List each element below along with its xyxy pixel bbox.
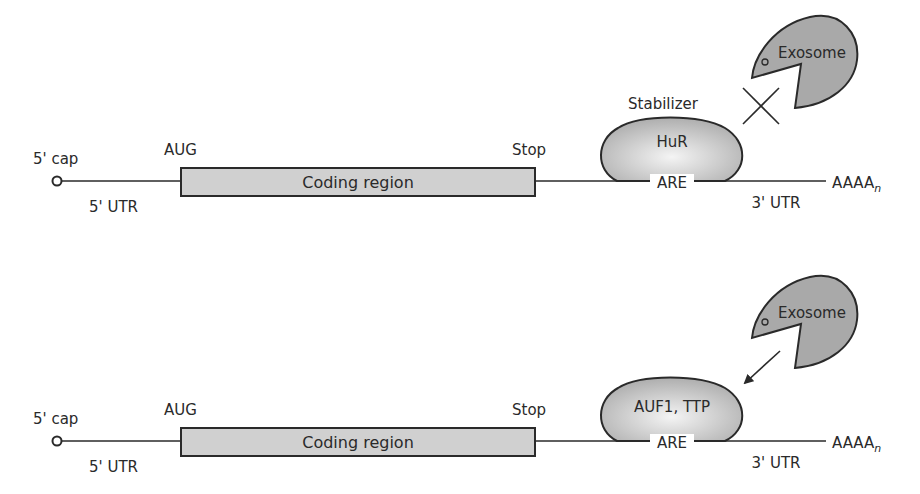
are-label: ARE bbox=[657, 174, 687, 192]
utr3-label: 3' UTR bbox=[752, 454, 801, 472]
start-codon-label: AUG bbox=[164, 401, 197, 419]
stop-codon-label: Stop bbox=[512, 141, 546, 159]
mrna-decay-diagram: 5' cap 5' UTR AUG Coding region Stop Sta… bbox=[0, 0, 920, 494]
exosome-label: Exosome bbox=[778, 304, 846, 322]
utr5-label: 5' UTR bbox=[89, 458, 138, 476]
utr3-label: 3' UTR bbox=[752, 194, 801, 212]
cap-icon bbox=[53, 177, 62, 186]
recruit-arrow-icon bbox=[745, 351, 780, 383]
protein-label: AUF1, TTP bbox=[634, 398, 710, 416]
cap-label: 5' cap bbox=[33, 150, 78, 168]
cap-label: 5' cap bbox=[33, 410, 78, 428]
block-x-icon bbox=[743, 88, 779, 124]
utr5-label: 5' UTR bbox=[89, 198, 138, 216]
protein-label: HuR bbox=[656, 133, 687, 151]
cap-icon bbox=[53, 437, 62, 446]
stabilizer-label: Stabilizer bbox=[628, 95, 699, 113]
polya-label: AAAAn bbox=[832, 434, 881, 455]
polya-label: AAAAn bbox=[832, 174, 881, 195]
start-codon-label: AUG bbox=[164, 141, 197, 159]
panel-destabilized: 5' cap 5' UTR AUG Coding region Stop AUF… bbox=[33, 276, 881, 476]
exosome-label: Exosome bbox=[778, 44, 846, 62]
are-label: ARE bbox=[657, 434, 687, 452]
panel-stabilized: 5' cap 5' UTR AUG Coding region Stop Sta… bbox=[33, 16, 881, 216]
coding-region-label: Coding region bbox=[302, 433, 414, 452]
coding-region-label: Coding region bbox=[302, 173, 414, 192]
stop-codon-label: Stop bbox=[512, 401, 546, 419]
